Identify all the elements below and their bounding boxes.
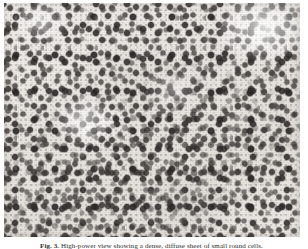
figure-caption: Fig. 3. High-power view showing a dense,… xyxy=(40,242,288,249)
figure-caption-text: High-power view showing a dense, diffuse… xyxy=(61,242,263,249)
dense-cell-aggregate-layer xyxy=(4,3,300,237)
figure-page: Fig. 3. High-power view showing a dense,… xyxy=(0,0,308,249)
micrograph-image xyxy=(4,3,300,237)
figure-label: Fig. 3. xyxy=(40,242,59,249)
